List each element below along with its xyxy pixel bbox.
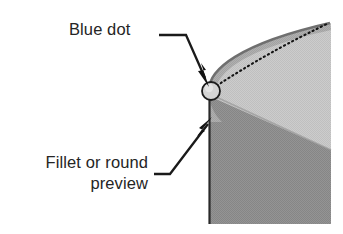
callout-label-fillet-preview: Fillet or round preview — [8, 152, 148, 194]
model-body — [200, 15, 340, 230]
leader-fillet — [154, 117, 212, 174]
callout-label-blue-dot: Blue dot — [69, 19, 130, 40]
callout-label-fillet-line-1: Fillet or round — [8, 152, 148, 173]
leader-blue-dot — [159, 35, 209, 87]
blue-dot-highlight — [205, 84, 213, 92]
callout-label-fillet-line-2: preview — [8, 173, 148, 194]
leader-line-blue-dot — [159, 35, 205, 78]
fillet-preview-diagram — [0, 0, 343, 234]
blue-dot-handle[interactable] — [202, 82, 220, 100]
leader-line-fillet — [154, 124, 208, 174]
